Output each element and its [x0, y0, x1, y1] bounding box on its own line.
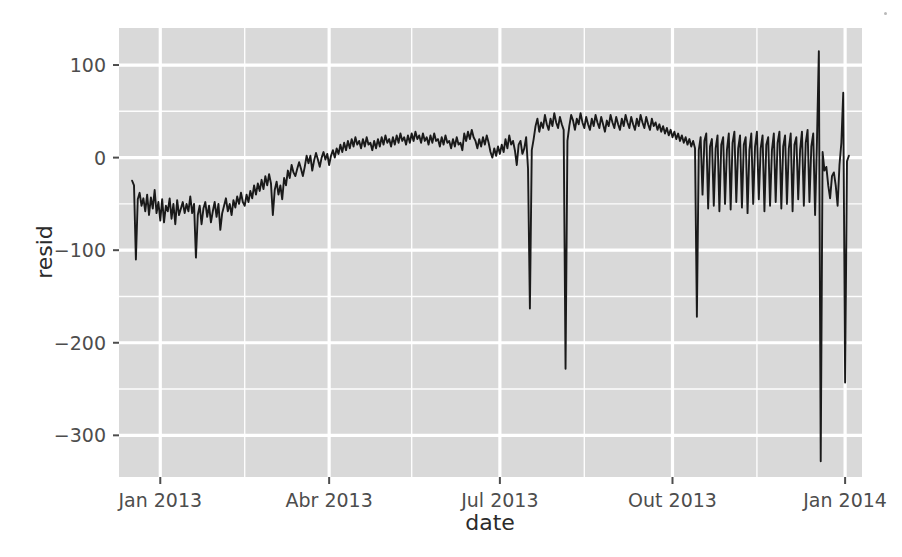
- y-tick-label: 0: [94, 147, 106, 169]
- x-tick-label: Abr 2013: [286, 489, 373, 511]
- y-tick-label: −100: [54, 239, 106, 261]
- x-tick-label: Jan 2014: [802, 489, 887, 511]
- y-tick-label: −300: [54, 424, 106, 446]
- x-axis-title: date: [465, 510, 515, 535]
- x-tick-label: Out 2013: [628, 489, 717, 511]
- plot-panel: [119, 28, 862, 477]
- x-tick-label: Jan 2013: [117, 489, 202, 511]
- residual-line-chart: 1000−100−200−300 Jan 2013Abr 2013Jul 201…: [0, 0, 902, 557]
- y-tick-label: 100: [70, 54, 106, 76]
- noise-speck: [884, 12, 887, 15]
- x-tick-label: Jul 2013: [460, 489, 538, 511]
- chart-figure: 1000−100−200−300 Jan 2013Abr 2013Jul 201…: [0, 0, 902, 557]
- y-axis-title: resid: [32, 225, 57, 279]
- y-tick-label: −200: [54, 332, 106, 354]
